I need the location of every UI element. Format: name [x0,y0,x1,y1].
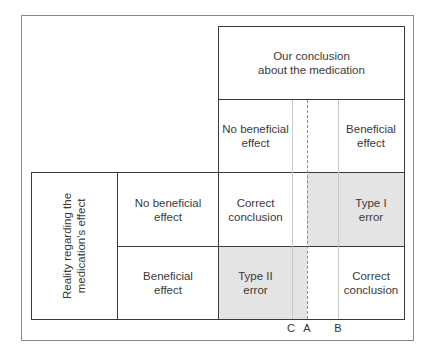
cell-correct-conclusion-1: Correct conclusion [219,173,292,246]
cell-line1: Correct [228,196,282,210]
row-label-line2: effect [143,283,193,297]
column-header-line2: effect [346,136,396,150]
cell-line1: Type I [355,196,386,210]
cell-line2: conclusion [344,283,398,297]
marker-a: A [300,322,314,334]
row-label-line1: Beneficial [143,269,193,283]
cell-line2: error [355,210,386,224]
cell-correct-conclusion-2: Correct conclusion [338,247,404,319]
conclusion-header-line2: about the medication [258,63,365,77]
conclusion-header: Our conclusion about the medication [218,26,405,100]
cell-type-i-error: Type I error [338,173,404,246]
cell-type-ii-error: Type II error [219,247,292,319]
conclusion-header-line1: Our conclusion [258,49,365,63]
column-header-line2: effect [222,136,288,150]
reality-label-line1: Reality regarding the [61,193,75,299]
row-label-line1: No beneficial [135,196,201,210]
column-header-beneficial: Beneficial effect [338,100,404,172]
row-label-line2: effect [135,210,201,224]
reality-label-line2: medication's effect [75,193,89,299]
column-header-no-beneficial: No beneficial effect [219,100,292,172]
marker-b: B [331,322,345,334]
threshold-line-a [307,100,308,319]
row-label-beneficial: Beneficial effect [118,247,218,319]
threshold-line-c [292,100,293,319]
cell-line1: Type II [238,269,273,283]
cell-line1: Correct [344,269,398,283]
column-header-line1: Beneficial [346,122,396,136]
reality-label: Reality regarding the medication's effec… [32,173,117,319]
column-header-line1: No beneficial [222,122,288,136]
cell-line2: error [238,283,273,297]
marker-c: C [284,322,298,334]
row-label-no-beneficial: No beneficial effect [118,173,218,246]
cell-line2: conclusion [228,210,282,224]
